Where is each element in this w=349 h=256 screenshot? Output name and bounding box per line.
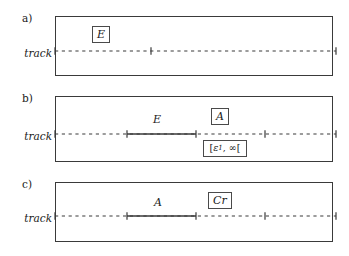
panel-label-c: c) [22, 178, 32, 190]
track-line-a [52, 46, 342, 56]
interval-upper-bound: ∞ [229, 143, 237, 153]
segment-label-e: E [153, 113, 161, 126]
event-box-e: E [92, 26, 110, 43]
panel-label-b: b) [22, 92, 33, 104]
segment-label-a: A [154, 196, 162, 209]
constraint-box-cr: Cr [208, 192, 232, 209]
constraint-box-cr-text: Cr [213, 195, 227, 206]
panel-label-a: a) [22, 12, 32, 24]
figure-root: a) track E b) track E A [ε1, ∞[ c) tra [0, 0, 349, 256]
track-label-c: track [6, 212, 52, 224]
interval-box: [ε1, ∞[ [203, 140, 247, 157]
action-box-a-text: A [216, 111, 224, 122]
track-label-a: track [6, 47, 52, 59]
track-line-b [52, 129, 342, 139]
interval-close-bracket: [ [237, 143, 241, 153]
action-box-a: A [211, 108, 229, 125]
track-line-c [52, 211, 342, 221]
track-label-b: track [6, 130, 52, 142]
event-box-e-text: E [97, 29, 105, 40]
